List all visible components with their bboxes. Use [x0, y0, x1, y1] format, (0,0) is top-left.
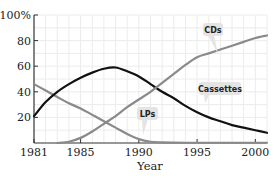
x-tick-label: 2000: [241, 146, 269, 159]
y-tick-label: 60: [17, 60, 31, 73]
x-tick-label: 1981: [20, 146, 48, 159]
callout-label: CDs: [204, 26, 222, 35]
x-axis-title: Year: [136, 159, 163, 173]
x-tick-label: 1995: [183, 146, 211, 159]
callout-lps: LPs: [137, 107, 158, 135]
y-tick-label: 100%: [0, 9, 31, 22]
x-tick-label: 1985: [67, 146, 95, 159]
y-tick-label: 80: [17, 35, 31, 48]
music-format-share-chart: 20406080100% 19811985199019952000 CDsCas…: [0, 0, 274, 180]
y-tick-label: 20: [17, 111, 31, 124]
y-tick-label: 40: [17, 86, 31, 99]
x-tick-label: 1990: [125, 146, 153, 159]
callout-label: LPs: [140, 110, 156, 119]
callout-label: Cassettes: [198, 85, 242, 94]
grid-lines: [34, 15, 267, 143]
y-axis-ticks: 20406080100%: [0, 9, 38, 124]
